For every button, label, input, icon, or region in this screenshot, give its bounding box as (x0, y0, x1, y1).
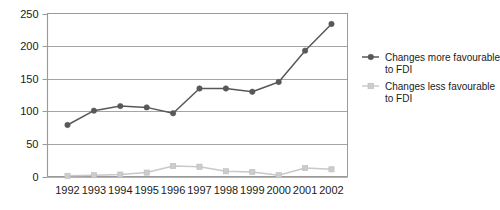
legend-label-line2: to FDI (385, 64, 412, 75)
data-point (250, 169, 255, 174)
line-chart: 050100150200250 199219931994199519961997… (0, 0, 500, 210)
chart-background (0, 0, 500, 210)
y-axis-label-150: 150 (20, 73, 38, 85)
x-axis-label-1992: 1992 (55, 184, 79, 196)
data-point (276, 173, 281, 178)
data-point (170, 111, 175, 116)
data-point (171, 163, 176, 168)
data-point (118, 172, 123, 177)
data-point (118, 103, 123, 108)
legend-label-line1: Changes less favourable (385, 81, 496, 92)
y-axis-label-50: 50 (26, 138, 38, 150)
y-axis-label-100: 100 (20, 105, 38, 117)
x-axis-label-1995: 1995 (134, 184, 158, 196)
legend-label-line2: to FDI (385, 93, 412, 104)
x-axis-tick-labels: 1992199319941995199619971998199920002001… (55, 184, 343, 196)
data-point (197, 164, 202, 169)
data-point (65, 122, 70, 127)
legend-marker-square-icon (368, 83, 374, 89)
data-point (276, 79, 281, 84)
legend-marker-circle-icon (368, 54, 374, 60)
data-point (329, 167, 334, 172)
data-point (223, 169, 228, 174)
data-point (91, 108, 96, 113)
x-axis-label-1993: 1993 (82, 184, 106, 196)
data-point (223, 86, 228, 91)
x-axis-label-1996: 1996 (161, 184, 185, 196)
data-point (144, 105, 149, 110)
data-point (329, 21, 334, 26)
chart-container: 050100150200250 199219931994199519961997… (0, 0, 500, 210)
x-axis-label-1994: 1994 (108, 184, 132, 196)
data-point (303, 165, 308, 170)
data-point (250, 89, 255, 94)
x-axis-label-2002: 2002 (319, 184, 343, 196)
y-axis-label-200: 200 (20, 40, 38, 52)
x-axis-label-2000: 2000 (266, 184, 290, 196)
y-axis-label-250: 250 (20, 8, 38, 20)
x-axis-label-1998: 1998 (214, 184, 238, 196)
legend-label-line1: Changes more favourable (385, 52, 500, 63)
x-axis-label-1997: 1997 (187, 184, 211, 196)
data-point (144, 170, 149, 175)
x-axis-label-1999: 1999 (240, 184, 264, 196)
data-point (65, 173, 70, 178)
data-point (91, 173, 96, 178)
x-axis-label-2001: 2001 (293, 184, 317, 196)
y-axis-label-0: 0 (32, 171, 38, 183)
data-point (197, 86, 202, 91)
data-point (302, 48, 307, 53)
